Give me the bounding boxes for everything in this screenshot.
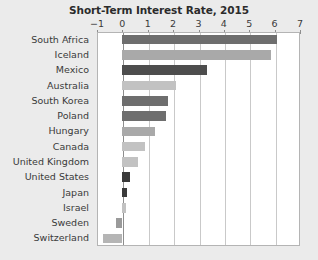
bar-row [97,203,300,212]
bar-row [97,218,300,227]
bar [122,65,207,74]
category-label: Japan [63,188,90,198]
bar-row [97,157,300,166]
category-label: South Korea [31,96,89,106]
bar [122,127,155,136]
category-label: United States [25,172,89,182]
bar [122,188,127,197]
bar [122,35,277,44]
bar [122,157,137,166]
x-tick-label: 2 [170,18,176,29]
bar-row [97,234,300,243]
bar [122,142,145,151]
bar [122,203,126,212]
bar-row [97,111,300,120]
category-label: United Kingdom [13,157,89,167]
category-label: Canada [53,142,89,152]
bar-row [97,50,300,59]
bar [122,111,165,120]
chart-container: Short-Term Interest Rate, 2015 −10123456… [0,0,318,260]
category-label: Poland [57,111,89,121]
bar [122,50,270,59]
x-tick-label: 4 [221,18,227,29]
bar-row [97,188,300,197]
x-tick-mark [300,30,301,34]
bar [116,218,122,227]
bar-row [97,81,300,90]
category-label: Israel [63,203,89,213]
bar-row [97,96,300,105]
y-axis-category-labels: South AfricaIcelandMexicoAustraliaSouth … [0,32,93,246]
bar-row [97,35,300,44]
category-label: Australia [47,81,89,91]
category-label: Mexico [56,65,89,75]
chart-title: Short-Term Interest Rate, 2015 [0,4,318,16]
x-tick-label: 6 [272,18,278,29]
x-tick-label: 3 [195,18,201,29]
bar [122,172,130,181]
bar-row [97,172,300,181]
x-tick-label: 1 [145,18,151,29]
bar [122,96,168,105]
bar-row [97,142,300,151]
x-axis-tick-labels: −101234567 [97,18,300,32]
bar-row [97,65,300,74]
category-label: Sweden [51,218,89,228]
x-tick-label: 0 [119,18,125,29]
category-label: Switzerland [34,233,89,243]
x-tick-label: 5 [246,18,252,29]
bar [103,234,122,243]
category-label: Hungary [48,126,89,136]
plot-wrapper [97,32,300,246]
bar-series [97,32,300,246]
category-label: Iceland [55,50,89,60]
category-label: South Africa [31,35,89,45]
x-tick-label: 7 [297,18,303,29]
bar-row [97,127,300,136]
x-tick-label: −1 [90,18,104,29]
bar [122,81,175,90]
